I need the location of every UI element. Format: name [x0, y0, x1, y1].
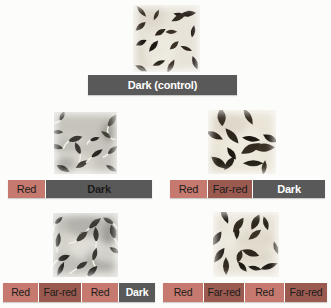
bar-segment-red: Red	[82, 283, 118, 302]
treatment-bar-red-farred-dark: Red Far-red Dark	[170, 180, 325, 198]
treatment-bar-red-farred-red-dark: Red Far-red Red Dark	[3, 283, 155, 302]
seed-photo-red-farred-red-dark	[53, 213, 118, 277]
bar-segment-dark: Dark	[119, 283, 155, 302]
ungerminated-seeds-image	[213, 212, 279, 277]
bar-segment-farred: Far-red	[39, 283, 81, 302]
ungerminated-seeds-image	[208, 110, 276, 174]
treatment-bar-red-dark: Red Dark	[8, 180, 152, 198]
seed-photo-dark-control	[133, 5, 200, 72]
bar-segment-red: Red	[163, 283, 203, 302]
bar-segment-dark: Dark	[46, 180, 152, 198]
bar-segment-red: Red	[8, 180, 45, 198]
bar-segment-farred: Far-red	[285, 283, 327, 302]
bar-segment-dark-control: Dark (control)	[88, 75, 237, 95]
germinated-seeds-image	[54, 112, 117, 174]
seed-germination-figure: Dark (control) Red Dark Red Far-red Dark…	[0, 0, 331, 308]
seed-photo-red-farred-red-farred	[213, 212, 279, 277]
germinated-seeds-image	[53, 213, 118, 277]
ungerminated-seeds-image	[133, 5, 200, 72]
seed-photo-red-farred-dark	[208, 110, 276, 174]
seed-photo-red-dark	[54, 112, 117, 174]
bar-segment-red: Red	[245, 283, 284, 302]
bar-segment-red: Red	[170, 180, 207, 198]
bar-segment-farred: Far-red	[204, 283, 244, 302]
bar-segment-red: Red	[3, 283, 38, 302]
bar-segment-farred: Far-red	[208, 180, 252, 198]
treatment-bar-dark-control: Dark (control)	[88, 75, 237, 95]
bar-segment-dark: Dark	[253, 180, 325, 198]
treatment-bar-red-farred-red-farred: Red Far-red Red Far-red	[163, 283, 327, 302]
